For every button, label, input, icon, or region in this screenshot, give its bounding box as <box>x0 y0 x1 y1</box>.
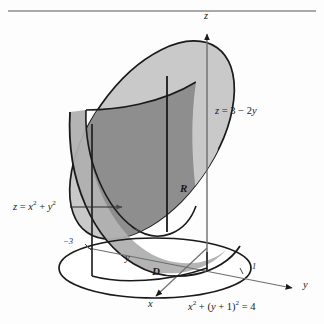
z-axis-label: z <box>204 11 208 22</box>
region-label-D: D <box>152 266 160 277</box>
paraboloid-equation-label: z = x2 + y2 <box>13 200 56 212</box>
diagram-svg <box>0 0 324 324</box>
tick-label-one: 1 <box>252 262 256 271</box>
x-axis-label: x <box>148 299 153 310</box>
figure-canvas: z y x y −3 1 R D z = 3 − 2y z = x2 + y2 … <box>0 0 324 324</box>
tick-label-minus-three: −3 <box>63 237 73 246</box>
circle-equation-label: x2 + (y + 1)2 = 4 <box>188 300 255 312</box>
region-label-R: R <box>180 183 187 194</box>
plane-equation-label: z = 3 − 2y <box>215 106 257 117</box>
plane-eq-rhs: 3 − 2y <box>230 105 256 116</box>
inner-y-axis-label: y <box>125 253 130 264</box>
y-axis-label: y <box>303 280 308 291</box>
